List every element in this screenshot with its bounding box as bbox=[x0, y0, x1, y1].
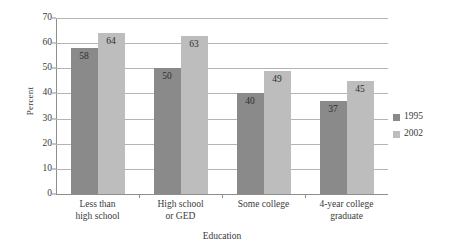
legend-item[interactable]: 1995 bbox=[393, 110, 451, 124]
bar[interactable]: 49 bbox=[264, 71, 291, 194]
bar-chart: Percent 010203040506070 5864506340493745… bbox=[0, 0, 452, 251]
legend-swatch-icon bbox=[393, 131, 400, 138]
bar-value-label: 45 bbox=[347, 85, 374, 95]
plot-area: 5864506340493745 bbox=[56, 18, 388, 194]
bar[interactable]: 45 bbox=[347, 81, 374, 194]
x-category-label-line: High school bbox=[139, 198, 222, 210]
bars-layer: 5864506340493745 bbox=[56, 18, 388, 194]
bar[interactable]: 63 bbox=[181, 36, 208, 194]
bar-value-label: 64 bbox=[98, 37, 125, 47]
x-tick-mark bbox=[139, 194, 140, 198]
y-tick-mark bbox=[52, 43, 56, 44]
bar[interactable]: 58 bbox=[71, 48, 98, 194]
bar-group: 4049 bbox=[237, 18, 291, 194]
x-category-label: Some college bbox=[222, 198, 305, 210]
legend-swatch-icon bbox=[393, 114, 400, 121]
x-category-label-line: 4-year college bbox=[305, 198, 388, 210]
legend-label: 1995 bbox=[404, 112, 423, 122]
x-tick-mark bbox=[222, 194, 223, 198]
bar-value-label: 63 bbox=[181, 40, 208, 50]
bar-value-label: 58 bbox=[71, 52, 98, 62]
bar-group: 5864 bbox=[71, 18, 125, 194]
y-axis-tick-labels: 010203040506070 bbox=[26, 0, 52, 251]
y-tick-mark bbox=[52, 68, 56, 69]
y-tick-mark bbox=[52, 143, 56, 144]
x-category-label: 4-year collegegraduate bbox=[305, 198, 388, 222]
x-category-label-line: Some college bbox=[222, 198, 305, 210]
bar[interactable]: 64 bbox=[98, 33, 125, 194]
y-tick-mark bbox=[52, 118, 56, 119]
y-tick-mark bbox=[52, 194, 56, 195]
bar-value-label: 37 bbox=[320, 105, 347, 115]
x-category-label-line: Less than bbox=[56, 198, 139, 210]
y-tick-label: 50 bbox=[26, 64, 52, 74]
legend-item[interactable]: 2002 bbox=[393, 127, 451, 141]
y-tick-mark bbox=[52, 168, 56, 169]
y-tick-mark bbox=[52, 93, 56, 94]
bar-value-label: 50 bbox=[154, 72, 181, 82]
bar-group: 3745 bbox=[320, 18, 374, 194]
x-category-label-line: or GED bbox=[139, 210, 222, 222]
y-tick-label: 60 bbox=[26, 38, 52, 48]
y-tick-label: 40 bbox=[26, 89, 52, 99]
x-axis-title: Education bbox=[56, 231, 388, 241]
x-category-label-line: graduate bbox=[305, 210, 388, 222]
x-tick-mark bbox=[305, 194, 306, 198]
y-tick-label: 10 bbox=[26, 164, 52, 174]
y-tick-label: 0 bbox=[26, 189, 52, 199]
x-category-label: Less thanhigh school bbox=[56, 198, 139, 222]
bar-value-label: 49 bbox=[264, 75, 291, 85]
bar[interactable]: 50 bbox=[154, 68, 181, 194]
legend-label: 2002 bbox=[404, 129, 423, 139]
x-category-label-line: high school bbox=[56, 210, 139, 222]
bar-value-label: 40 bbox=[237, 97, 264, 107]
y-tick-label: 70 bbox=[26, 13, 52, 23]
y-tick-label: 30 bbox=[26, 114, 52, 124]
bar-group: 5063 bbox=[154, 18, 208, 194]
chart-legend: 19952002 bbox=[393, 110, 451, 144]
y-tick-mark bbox=[52, 18, 56, 19]
x-axis-category-labels: Less thanhigh schoolHigh schoolor GEDSom… bbox=[56, 198, 388, 232]
x-category-label: High schoolor GED bbox=[139, 198, 222, 222]
bar[interactable]: 37 bbox=[320, 101, 347, 194]
bar[interactable]: 40 bbox=[237, 93, 264, 194]
y-tick-label: 20 bbox=[26, 139, 52, 149]
